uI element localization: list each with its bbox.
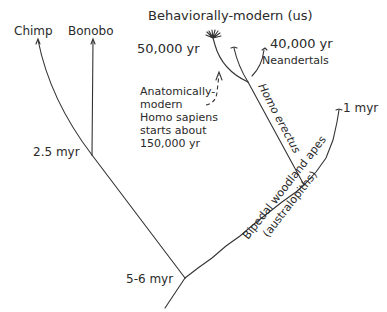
annotation-line: Homo sapiens bbox=[140, 111, 218, 124]
annotation-line: modern bbox=[140, 98, 183, 111]
label-chimp: Chimp bbox=[14, 24, 53, 38]
label-bonobo: Bonobo bbox=[68, 24, 113, 38]
annotation-anatomically-modern: Anatomically- modern Homo sapiens starts… bbox=[140, 85, 218, 150]
annotation-line: 150,000 yr bbox=[140, 137, 200, 150]
branch-bonobo bbox=[92, 40, 93, 155]
branch-archaic-homo bbox=[234, 48, 248, 82]
label-1myr: 1 myr bbox=[343, 101, 378, 115]
behaviorally-modern-burst-icon bbox=[206, 30, 221, 38]
annotation-line: Anatomically- bbox=[140, 85, 215, 98]
label-50000yr: 50,000 yr bbox=[137, 41, 200, 56]
neandertal-tip-icon bbox=[262, 48, 267, 50]
phylogenetic-tree-diagram: Behaviorally-modern (us) Chimp Bonobo 50… bbox=[0, 0, 387, 312]
label-2-5myr: 2.5 myr bbox=[33, 145, 80, 159]
annotation-line: starts about bbox=[140, 124, 207, 137]
title-behaviorally-modern: Behaviorally-modern (us) bbox=[148, 8, 313, 23]
branch-australopiths bbox=[185, 110, 339, 278]
branch-chimp bbox=[38, 40, 92, 155]
label-homo-erectus: Homo erectus bbox=[255, 81, 303, 155]
label-neandertals: Neandertals bbox=[262, 54, 329, 67]
branch-pan-stem bbox=[92, 155, 185, 278]
label-40000yr: 40,000 yr bbox=[270, 36, 333, 51]
label-5-6myr: 5-6 myr bbox=[126, 272, 173, 286]
